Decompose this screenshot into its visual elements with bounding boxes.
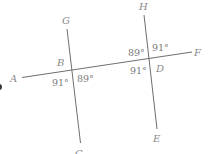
angle-d-upper-left: 89° — [128, 47, 145, 58]
label-f: F — [193, 47, 202, 58]
label-g: G — [62, 15, 70, 26]
edge-marker — [0, 84, 2, 90]
label-d: D — [155, 63, 164, 74]
angle-d-lower-left: 91° — [130, 65, 147, 76]
label-b: B — [56, 57, 64, 68]
line-gc — [67, 29, 81, 143]
angle-b-lower-left: 91° — [52, 77, 69, 88]
label-c: C — [75, 148, 83, 154]
label-h: H — [138, 1, 148, 12]
geometry-diagram: G H A B D F E C 91° 89° 89° 91° 91° — [0, 0, 214, 154]
label-a: A — [9, 73, 17, 84]
angle-d-upper-right: 91° — [152, 42, 169, 53]
label-e: E — [152, 133, 161, 144]
line-af — [22, 52, 192, 78]
angle-b-lower-right: 89° — [77, 73, 94, 84]
